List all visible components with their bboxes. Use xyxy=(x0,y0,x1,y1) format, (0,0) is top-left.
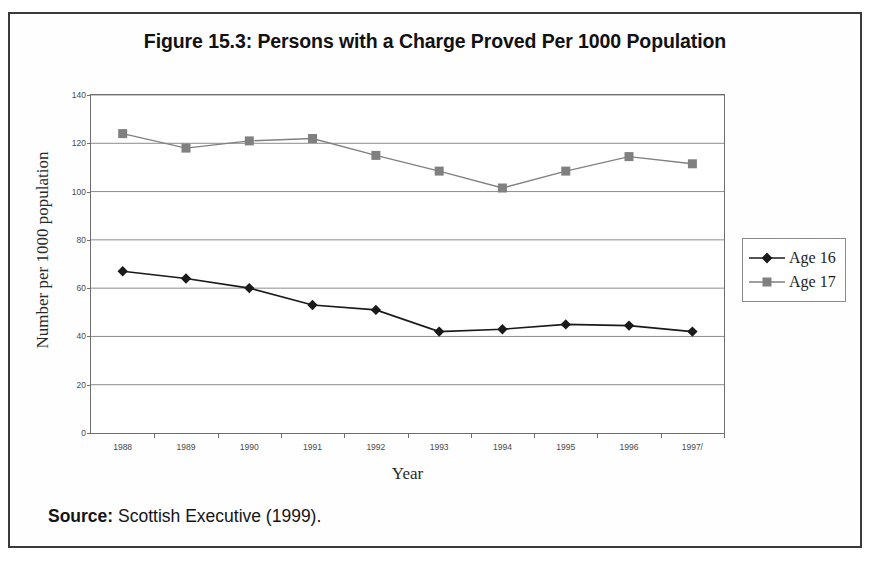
y-tick-label: 100 xyxy=(72,187,86,197)
x-tick-mark xyxy=(218,433,219,438)
legend-item-age-16: Age 16 xyxy=(749,246,836,270)
x-tick-mark xyxy=(281,433,282,438)
legend-label: Age 17 xyxy=(789,273,836,291)
x-tick-label: 1990 xyxy=(240,442,259,452)
square-marker-icon xyxy=(749,275,785,289)
data-point xyxy=(498,184,507,193)
y-tick-mark xyxy=(87,433,91,434)
data-point xyxy=(497,324,507,334)
y-tick-mark xyxy=(87,336,91,337)
chart-plot-svg xyxy=(91,95,724,433)
y-tick-mark xyxy=(87,192,91,193)
data-point xyxy=(182,144,191,153)
chart-legend: Age 16Age 17 xyxy=(742,238,846,302)
chart-region: Number per 1000 population 0204060801001… xyxy=(10,72,864,482)
data-point xyxy=(687,326,698,336)
x-axis-title: Year xyxy=(90,464,725,484)
data-point xyxy=(371,151,380,160)
x-tick-label: 1997/ xyxy=(682,442,703,452)
x-tick-label: 1993 xyxy=(430,442,449,452)
x-tick-mark xyxy=(344,433,345,438)
x-tick-label: 1994 xyxy=(493,442,512,452)
figure-title: Figure 15.3: Persons with a Charge Prove… xyxy=(10,30,860,53)
series-line-age-17 xyxy=(123,134,693,188)
legend-item-age-17: Age 17 xyxy=(749,270,836,294)
source-label: Source: xyxy=(48,506,113,526)
x-tick-mark xyxy=(471,433,472,438)
y-tick-label: 20 xyxy=(77,380,86,390)
data-point xyxy=(181,273,191,283)
figure-container: Figure 15.3: Persons with a Charge Prove… xyxy=(8,12,862,548)
x-tick-label: 1989 xyxy=(176,442,195,452)
y-tick-mark xyxy=(87,240,91,241)
plot-area: 0204060801001201401988198919901991199219… xyxy=(90,94,725,434)
data-point xyxy=(561,167,570,176)
y-axis-title: Number per 1000 population xyxy=(33,135,53,365)
data-point xyxy=(307,300,317,310)
data-point xyxy=(245,136,254,145)
y-tick-mark xyxy=(87,95,91,96)
source-text: Scottish Executive (1999). xyxy=(113,506,321,526)
data-point xyxy=(308,134,317,143)
data-point xyxy=(625,152,634,161)
x-tick-mark xyxy=(597,433,598,438)
data-point xyxy=(624,320,635,330)
y-tick-mark xyxy=(87,143,91,144)
data-point xyxy=(371,305,381,315)
x-tick-mark xyxy=(408,433,409,438)
x-tick-label: 1988 xyxy=(113,442,132,452)
legend-label: Age 16 xyxy=(789,249,836,267)
x-tick-label: 1991 xyxy=(303,442,322,452)
data-point xyxy=(435,167,444,176)
y-tick-label: 0 xyxy=(81,428,86,438)
y-tick-label: 40 xyxy=(77,331,86,341)
x-tick-mark xyxy=(661,433,662,438)
data-point xyxy=(244,283,254,293)
diamond-marker-icon xyxy=(749,251,785,265)
x-tick-mark xyxy=(534,433,535,438)
data-point xyxy=(434,326,444,336)
y-tick-mark xyxy=(87,385,91,386)
y-tick-label: 140 xyxy=(72,90,86,100)
x-tick-mark xyxy=(724,433,725,438)
x-tick-label: 1996 xyxy=(620,442,639,452)
source-line: Source: Scottish Executive (1999). xyxy=(48,506,321,527)
y-tick-label: 60 xyxy=(77,283,86,293)
x-tick-mark xyxy=(154,433,155,438)
x-tick-label: 1992 xyxy=(366,442,385,452)
series-line-age-16 xyxy=(123,271,693,331)
x-tick-label: 1995 xyxy=(556,442,575,452)
data-point xyxy=(688,159,697,168)
y-tick-label: 120 xyxy=(72,138,86,148)
data-point xyxy=(118,266,128,276)
y-tick-mark xyxy=(87,288,91,289)
data-point xyxy=(561,319,571,329)
data-point xyxy=(118,129,127,138)
y-tick-label: 80 xyxy=(77,235,86,245)
